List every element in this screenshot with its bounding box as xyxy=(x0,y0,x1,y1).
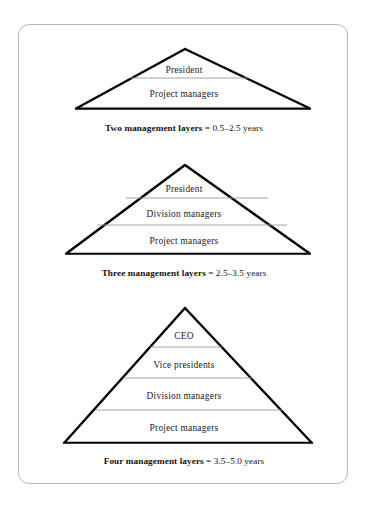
tier-label: Project managers xyxy=(19,237,349,246)
two-layer-pyramid: President Project managers Two managemen… xyxy=(19,44,349,114)
tier-label: Division managers xyxy=(19,210,349,219)
caption-title: Four management layers xyxy=(104,456,204,466)
four-layer-pyramid: CEO Vice presidents Division managers Pr… xyxy=(19,303,349,448)
tier-label: Division managers xyxy=(19,392,349,401)
tier-label: CEO xyxy=(19,332,349,341)
two-layer-pyramid-shape xyxy=(19,44,349,114)
tier-label: President xyxy=(19,66,349,75)
caption-value: = 2.5–3.5 years xyxy=(208,268,266,278)
tier-label: Project managers xyxy=(19,424,349,433)
tier-label: Project managers xyxy=(19,90,349,99)
figure-frame: President Project managers Two managemen… xyxy=(18,24,348,484)
four-layer-pyramid-graphic: CEO Vice presidents Division managers Pr… xyxy=(19,303,349,448)
three-layer-pyramid-graphic: President Division managers Project mana… xyxy=(19,160,349,260)
three-layer-caption: Three management layers = 2.5–3.5 years xyxy=(19,269,349,278)
tier-label: Vice presidents xyxy=(19,361,349,370)
three-layer-pyramid: President Division managers Project mana… xyxy=(19,160,349,260)
caption-value: = 3.5–5.0 years xyxy=(206,456,264,466)
two-layer-pyramid-graphic: President Project managers xyxy=(19,44,349,114)
caption-title: Two management layers xyxy=(105,123,202,133)
caption-value: = 0.5–2.5 years xyxy=(205,123,263,133)
four-layer-caption: Four management layers = 3.5–5.0 years xyxy=(19,457,349,466)
caption-title: Three management layers xyxy=(102,268,206,278)
two-layer-caption: Two management layers = 0.5–2.5 years xyxy=(19,124,349,133)
tier-label: President xyxy=(19,185,349,194)
